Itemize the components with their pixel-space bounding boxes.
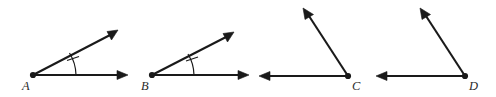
- vertex-label-c: C: [352, 79, 361, 93]
- angle-diagram-b: B: [141, 32, 249, 93]
- arrowhead-c-upper: [303, 8, 314, 20]
- arrowhead-a-horizontal: [117, 71, 128, 80]
- angle-figure-canvas: A B C D: [0, 0, 496, 97]
- arrowhead-a-upper: [107, 30, 118, 40]
- arrowhead-b-upper: [223, 32, 234, 42]
- vertex-dot-d: [462, 73, 468, 79]
- vertex-dot-c: [345, 73, 351, 79]
- vertex-label-d: D: [468, 79, 478, 93]
- angle-diagram-c: C: [259, 8, 361, 93]
- vertex-label-a: A: [21, 79, 30, 93]
- ray-a-upper: [33, 34, 112, 75]
- angle-figure-svg: A B C D: [0, 0, 496, 97]
- angle-diagram-a: A: [21, 30, 128, 93]
- ray-c-upper: [309, 16, 348, 76]
- vertex-dot-b: [149, 72, 155, 78]
- arrowhead-d-left: [376, 72, 387, 81]
- ray-d-upper: [426, 16, 465, 76]
- angle-diagram-d: D: [376, 8, 478, 93]
- arrowhead-c-left: [259, 72, 270, 81]
- arrowhead-b-horizontal: [238, 71, 249, 80]
- arrowhead-d-upper: [420, 8, 431, 20]
- vertex-dot-a: [30, 72, 36, 78]
- ray-b-upper: [152, 36, 228, 75]
- vertex-label-b: B: [141, 79, 149, 93]
